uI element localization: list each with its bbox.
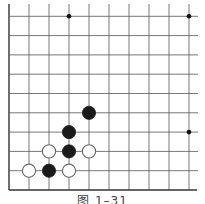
- star-point: [67, 14, 72, 19]
- black-stone: [42, 164, 55, 177]
- grid-lines: [9, 4, 198, 190]
- black-stone: [82, 106, 95, 119]
- white-stone: [82, 145, 95, 158]
- go-board: [0, 0, 205, 194]
- white-stone: [62, 164, 75, 177]
- figure-caption: 图 1–31: [0, 194, 205, 204]
- stones: [22, 106, 95, 177]
- star-point: [187, 130, 192, 135]
- white-stone: [22, 164, 35, 177]
- black-stone: [62, 126, 75, 139]
- black-stone: [62, 145, 75, 158]
- star-point: [187, 14, 192, 19]
- white-stone: [42, 145, 55, 158]
